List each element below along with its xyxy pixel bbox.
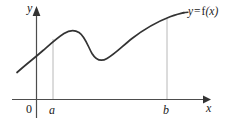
graph-figure: y x 0 a b y=f(x) bbox=[0, 0, 239, 123]
function-equation-label: y=f(x) bbox=[188, 6, 218, 18]
origin-label: 0 bbox=[26, 103, 32, 115]
graph-canvas bbox=[0, 0, 239, 123]
function-label-equals: = bbox=[193, 5, 202, 17]
y-axis-label: y bbox=[27, 2, 32, 14]
x-tick-label-b: b bbox=[163, 104, 169, 116]
y-axis-arrowhead bbox=[33, 6, 41, 16]
function-curve bbox=[17, 13, 184, 73]
x-axis-label: x bbox=[206, 102, 211, 114]
x-tick-label-a: a bbox=[49, 104, 55, 116]
function-label-argument: (x) bbox=[205, 5, 218, 17]
